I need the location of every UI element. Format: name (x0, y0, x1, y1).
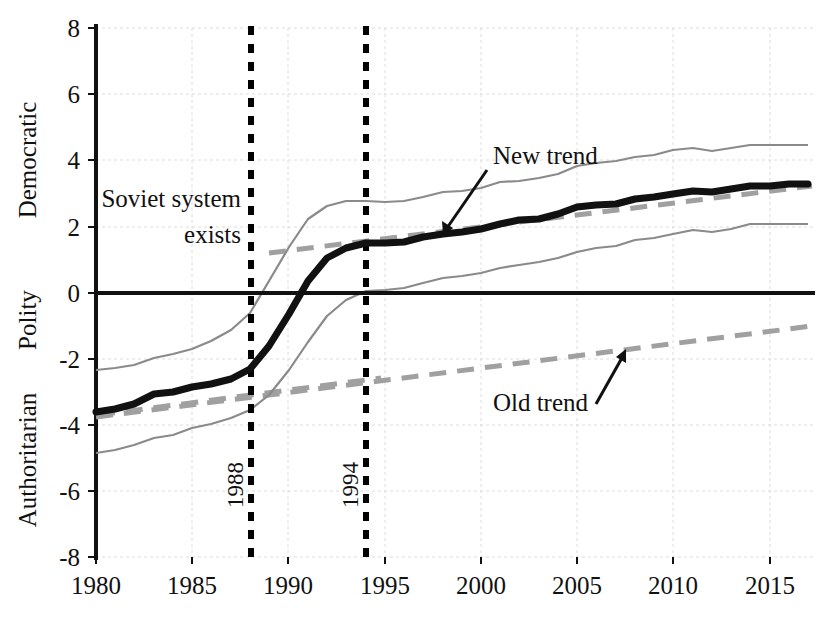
ytick-label-neg6: -6 (59, 478, 80, 505)
chart-canvas: 8 6 4 2 0 -2 -4 -6 -8 Democratic Polity … (0, 0, 827, 618)
old-trend-label: Old trend (493, 389, 589, 416)
xtick-label-1995: 1995 (360, 572, 410, 599)
new-trend-label: New trend (493, 142, 598, 169)
vline-label-1988: 1988 (223, 462, 248, 508)
xtick-label-1980: 1980 (71, 572, 121, 599)
ytick-label-neg2: -2 (59, 346, 80, 373)
xtick-label-2000: 2000 (456, 572, 506, 599)
xtick-label-2005: 2005 (552, 572, 602, 599)
soviet-note-line1: Soviet system (101, 185, 241, 212)
axis-label-polity: Polity (14, 290, 41, 350)
xtick-label-1990: 1990 (263, 572, 313, 599)
ytick-label-8: 8 (68, 15, 81, 42)
polity-trend-chart: 8 6 4 2 0 -2 -4 -6 -8 Democratic Polity … (0, 0, 827, 618)
vline-label-1994: 1994 (338, 462, 363, 509)
ytick-label-0: 0 (68, 280, 81, 307)
ytick-label-neg8: -8 (59, 544, 80, 571)
ytick-label-6: 6 (68, 81, 81, 108)
axis-label-democratic: Democratic (14, 102, 41, 219)
soviet-note-line2: exists (184, 221, 241, 248)
xtick-label-1985: 1985 (167, 572, 217, 599)
xtick-label-2010: 2010 (648, 572, 698, 599)
axis-label-authoritarian: Authoritarian (14, 392, 41, 527)
ytick-label-neg4: -4 (59, 412, 80, 439)
chart-background (0, 0, 827, 618)
ytick-label-2: 2 (68, 214, 81, 241)
ytick-label-4: 4 (68, 147, 81, 174)
xtick-label-2015: 2015 (745, 572, 795, 599)
